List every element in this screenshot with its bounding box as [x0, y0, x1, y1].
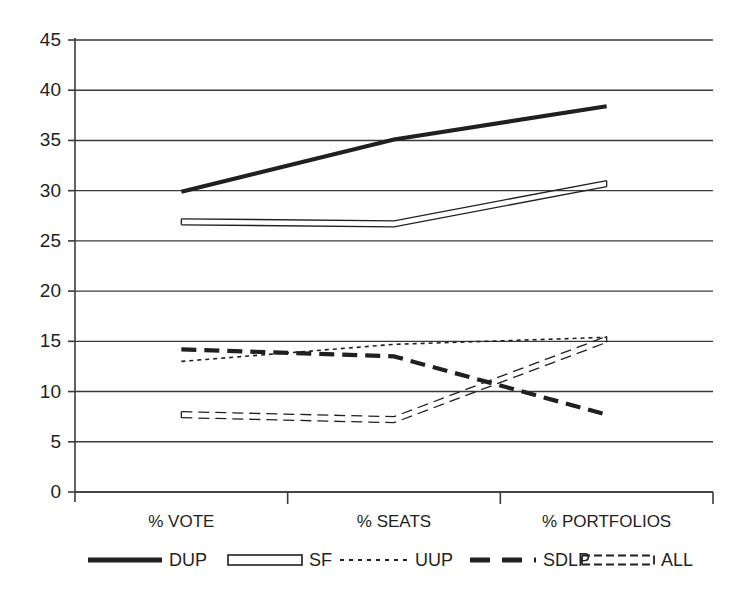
y-axis-tick-label: 10: [40, 381, 61, 402]
y-axis-tick-label: 35: [40, 129, 61, 150]
y-axis-tick-label: 45: [40, 29, 61, 50]
x-axis-category-label: % VOTE: [148, 512, 214, 531]
y-axis-tick-label: 15: [40, 330, 61, 351]
y-axis-tick-label: 5: [50, 431, 61, 452]
chart-container: 454035302520151050 % VOTE% SEATS% PORTFO…: [0, 0, 747, 598]
x-axis-category-label: % PORTFOLIOS: [542, 512, 671, 531]
y-axis-tick-label: 30: [40, 180, 61, 201]
legend-swatch-ribbon: [228, 555, 302, 565]
legend-label: SF: [309, 550, 332, 570]
y-axis-tick-label: 20: [40, 280, 61, 301]
y-axis-tick-label: 0: [50, 481, 61, 502]
legend-label: ALL: [661, 550, 693, 570]
legend-label: DUP: [169, 550, 207, 570]
legend-label: SDLP: [543, 550, 590, 570]
x-axis-category-label: % SEATS: [357, 512, 431, 531]
legend-label: UUP: [415, 550, 453, 570]
line-chart: 454035302520151050 % VOTE% SEATS% PORTFO…: [0, 0, 747, 598]
y-axis-tick-label: 40: [40, 79, 61, 100]
y-axis-tick-label: 25: [40, 230, 61, 251]
